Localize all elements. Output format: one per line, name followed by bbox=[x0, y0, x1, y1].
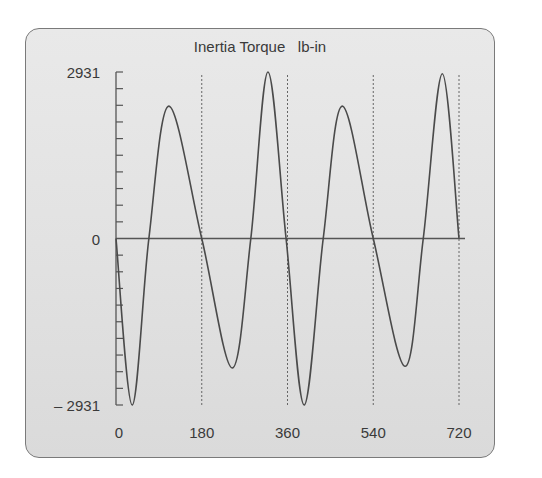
y-tick-label-zero: 0 bbox=[92, 231, 100, 248]
x-tick-label: 0 bbox=[115, 424, 123, 441]
x-tick-label: 180 bbox=[189, 424, 214, 441]
x-tick-labels: 0180360540720 bbox=[115, 424, 472, 441]
x-tick-label: 540 bbox=[361, 424, 386, 441]
y-tick-label-max: 2931 bbox=[67, 64, 100, 81]
chart-title: Inertia Torque lb-in bbox=[194, 38, 326, 55]
x-tick-label: 720 bbox=[446, 424, 471, 441]
inertia-torque-chart: Inertia Torque lb-in 2931 0 – 2931 01803… bbox=[0, 0, 542, 478]
y-tick-label-min: – 2931 bbox=[54, 397, 100, 414]
vertical-reference-lines bbox=[202, 75, 459, 405]
x-tick-label: 360 bbox=[275, 424, 300, 441]
